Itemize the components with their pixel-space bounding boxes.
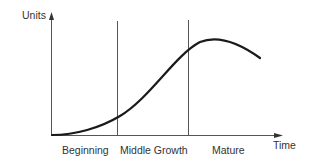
life-cycle-curve [52, 39, 260, 135]
life-cycle-diagram [0, 0, 312, 161]
phase-label-middle-growth: Middle Growth [120, 144, 188, 156]
y-axis-label: Units [22, 9, 46, 21]
y-axis-arrow-icon [49, 12, 54, 20]
phase-label-beginning: Beginning [62, 144, 109, 156]
phase-label-mature: Mature [212, 144, 245, 156]
x-axis-label: Time [273, 139, 296, 151]
x-axis-arrow-icon [274, 133, 283, 138]
